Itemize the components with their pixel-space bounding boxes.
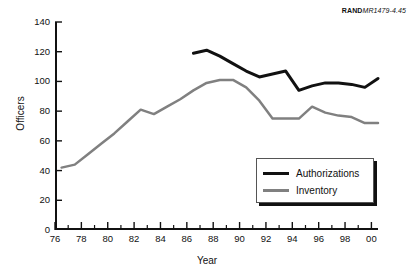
chart-legend: Authorizations Inventory (256, 158, 374, 203)
x-axis-tick-labels: 76788082848688909294969800 (0, 233, 414, 249)
x-tick-label: 90 (228, 233, 252, 244)
legend-swatch-inventory (263, 189, 289, 192)
chart-page: RANDMR1479-4.45 Officers 020406080100120… (0, 0, 414, 278)
x-tick-label: 78 (69, 233, 93, 244)
x-tick-label: 80 (96, 233, 120, 244)
x-tick-label: 76 (43, 233, 67, 244)
x-tick-label: 88 (201, 233, 225, 244)
x-axis-title: Year (0, 255, 414, 266)
legend-item-inventory: Inventory (263, 182, 373, 199)
x-tick-label: 98 (333, 233, 357, 244)
x-tick-label: 84 (148, 233, 172, 244)
x-tick-label: 86 (175, 233, 199, 244)
legend-item-authorizations: Authorizations (263, 165, 373, 182)
x-tick-label: 94 (280, 233, 304, 244)
legend-label-inventory: Inventory (296, 186, 337, 196)
legend-swatch-authorizations (263, 172, 289, 175)
legend-label-authorizations: Authorizations (296, 169, 359, 179)
x-tick-label: 96 (307, 233, 331, 244)
x-tick-label: 92 (254, 233, 278, 244)
x-tick-label: 82 (122, 233, 146, 244)
x-tick-label: 00 (359, 233, 383, 244)
